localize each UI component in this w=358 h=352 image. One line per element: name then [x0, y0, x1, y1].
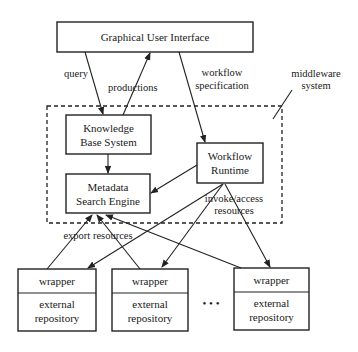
query-arrow	[85, 52, 103, 114]
repo-3-label-line2: repository	[249, 311, 294, 323]
repo-1-label-line1: external	[39, 298, 74, 310]
wrapper-node-3: wrapper external repository	[234, 268, 309, 330]
repo-2-label-line1: external	[132, 298, 167, 310]
mse-label-line2: Search Engine	[76, 195, 140, 207]
export-label: export resources	[63, 230, 132, 241]
ellipsis: • • •	[202, 297, 219, 309]
middleware-label-line1: middleware	[291, 68, 341, 79]
wrapper-3-label: wrapper	[253, 274, 289, 286]
repo-2-label-line2: repository	[128, 312, 173, 324]
middleware-leader-line	[273, 90, 292, 119]
workflow-spec-arrow	[179, 52, 205, 142]
wrapper-node-2: wrapper external repository	[112, 269, 188, 331]
kbs-label-line2: Base System	[80, 136, 137, 148]
gui-node: Graphical User Interface	[57, 22, 253, 52]
invoke-label-line1: invoke/access	[205, 193, 263, 204]
workflow-spec-label-line2: specification	[195, 80, 249, 91]
wfr-label-line2: Runtime	[211, 164, 249, 176]
repo-1-label-line2: repository	[35, 312, 80, 324]
wrapper-1-label: wrapper	[39, 275, 75, 287]
metadata-search-engine-node: Metadata Search Engine	[66, 174, 150, 213]
mse-label-line1: Metadata	[88, 181, 129, 193]
workflow-spec-label-line1: workflow	[202, 67, 243, 78]
wrapper-2-label: wrapper	[132, 275, 168, 287]
export-arrow-wrapper-1	[47, 215, 92, 269]
wrapper-node-1: wrapper external repository	[18, 269, 96, 331]
query-label: query	[64, 68, 89, 79]
productions-label: productions	[108, 82, 158, 93]
kbs-label-line1: Knowledge	[83, 122, 134, 134]
wfr-to-mse-arrow	[151, 165, 197, 193]
repo-3-label-line1: external	[254, 297, 289, 309]
invoke-label-line2: resources	[214, 205, 254, 216]
middleware-label-line2: system	[301, 80, 330, 91]
gui-label: Graphical User Interface	[101, 31, 210, 43]
workflow-runtime-node: Workflow Runtime	[197, 143, 263, 183]
architecture-diagram: middleware system Graphical User Interfa…	[0, 0, 358, 352]
wfr-label-line1: Workflow	[208, 150, 252, 162]
knowledge-base-node: Knowledge Base System	[66, 115, 151, 154]
